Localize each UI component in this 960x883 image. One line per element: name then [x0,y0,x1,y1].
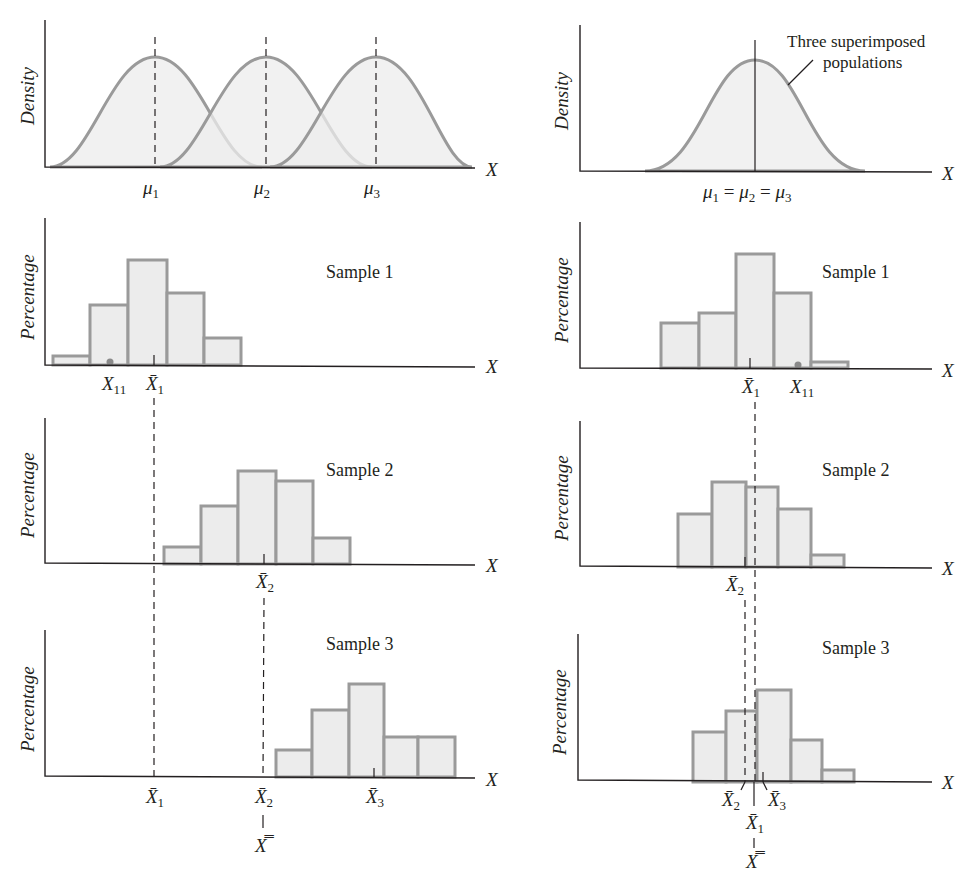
x-axis-label: X [485,356,499,377]
x-axis-label: X [941,360,955,381]
histogram-bar [726,711,757,782]
xbar1-label: X̄1 [741,376,760,400]
histogram-bar [791,740,822,782]
histogram-bar [90,305,128,365]
mu3-label: μ3 [363,177,380,201]
x11-label: X11 [789,376,814,400]
x-axis-label: X [941,163,955,184]
annotation-text-line2: populations [823,53,902,72]
histogram-bar [128,260,167,365]
annotation-leader [788,60,813,85]
histogram-bar [811,362,848,368]
x-axis-label: X [485,555,499,576]
xbar2-label: X̄2 [725,574,744,598]
histogram-bar [778,509,811,567]
xbar2-label: X̄2 [255,571,274,595]
right-population-panel: Density X Three superimposed populations… [551,25,955,205]
sample-title: Sample 1 [822,262,890,282]
y-axis-label: Percentage [17,254,38,341]
histogram-bar [774,293,811,368]
anova-figure: Density X μ1 μ2 μ3 Percentage X Sample 1… [0,0,960,883]
left-population-panel: Density X μ1 μ2 μ3 [17,20,499,201]
histogram-bar [313,538,350,564]
x-axis-label: X [485,769,499,790]
left-sample-3-panel: Percentage X Sample 3 X̄1 X̄2 X̄3 X̿ [17,630,499,856]
histogram-bar [276,481,313,564]
histogram-bar [811,555,844,567]
y-axis-label: Percentage [551,257,572,344]
grand-mean-label: X̿ [745,851,766,872]
left-sample-1-panel: Percentage X Sample 1 X11 X̄1 [17,218,499,397]
xbar3-label: X̄3 [767,789,786,813]
histogram-bar [746,487,778,567]
xbar1-label: X̄1 [145,373,164,397]
y-axis-label: Percentage [549,669,570,756]
sample-title: Sample 3 [326,634,394,654]
histogram-bar [678,514,712,567]
xbar1-label: X̄1 [145,786,164,810]
x11-label: X11 [101,373,126,397]
xbar3-label: X̄3 [365,786,384,810]
histogram-bar [757,690,791,782]
y-axis-label: Percentage [17,452,38,539]
histogram-bar [204,338,241,365]
histogram-bar [164,547,201,564]
sample-title: Sample 2 [326,460,394,480]
xbar2-guide-line [263,598,264,777]
y-axis-label: Density [17,66,38,126]
sample-title: Sample 2 [822,460,890,480]
histogram-bar [276,750,312,777]
mu2-label: μ2 [253,177,270,201]
mu1-label: μ1 [142,177,159,201]
sample-title: Sample 3 [822,638,890,658]
x-axis-label: X [941,772,955,793]
histogram-bar [693,732,726,782]
histogram-bar [736,254,774,368]
histogram-bar [167,293,204,365]
histogram-bar [822,770,854,782]
histogram-bar [201,506,238,564]
histogram-bar [53,356,90,365]
x11-point [107,359,114,366]
histogram-bar [349,684,384,777]
histogram-bar [699,313,736,368]
histogram-bar [312,710,349,777]
histogram-bar [712,482,746,567]
annotation-text-line1: Three superimposed [787,32,926,51]
right-sample-2-panel: Percentage X Sample 2 X̄2 [551,421,955,598]
x11-point [795,362,802,369]
equal-means-label: μ1 = μ2 = μ3 [702,181,792,205]
xbar2-label: X̄2 [254,786,273,810]
xbar1-label: X̄1 [745,812,764,836]
grand-mean-label: X̿ [254,835,275,856]
x-axis-label: X [941,558,955,579]
right-sample-3-panel: Percentage X Sample 3 X̄2 X̄3 X̄1 X̿ [549,634,955,872]
histogram-bar [661,323,699,368]
histogram-bar [418,737,455,777]
y-axis-label: Percentage [551,455,572,542]
y-axis-label: Density [551,71,572,131]
histogram-bar [238,471,276,564]
right-sample-1-panel: Percentage X Sample 1 X̄1 X11 [551,222,955,400]
xbar2-label: X̄2 [721,789,740,813]
histogram-bar [384,737,418,777]
x-axis-label: X [485,159,499,180]
y-axis-label: Percentage [17,666,38,753]
left-sample-2-panel: Percentage X Sample 2 X̄2 [17,418,499,595]
sample-title: Sample 1 [326,262,394,282]
